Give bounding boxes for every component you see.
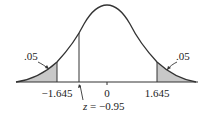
tick-label-center: 0: [104, 87, 110, 99]
tick-label-right: 1.645: [145, 87, 170, 99]
right-area-label: .05: [176, 50, 190, 62]
normal-curve-chart: .05 .05 −1.645 0 1.645 z = −0.95: [0, 0, 206, 115]
normal-curve: [16, 5, 196, 82]
z-annotation: z = −0.95: [82, 100, 125, 112]
right-tail-shade: [157, 62, 196, 82]
z-value: = −0.95: [87, 100, 125, 112]
z-pointer-arrow-icon: [80, 85, 83, 100]
left-tail-shade: [16, 62, 57, 82]
left-area-label: .05: [24, 50, 38, 62]
tick-label-left: −1.645: [42, 87, 73, 99]
